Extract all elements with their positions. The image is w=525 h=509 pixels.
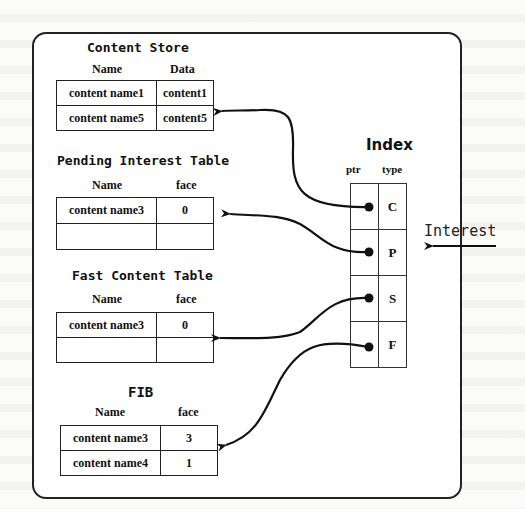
pointer-dot-s xyxy=(365,294,374,303)
arrow-index-c-to-content-store xyxy=(222,110,369,207)
arrow-index-p-to-pit xyxy=(230,214,369,252)
connector-arrows xyxy=(0,0,525,509)
arrow-index-s-to-fct xyxy=(220,298,369,338)
pointer-dot-p xyxy=(365,248,374,257)
pointer-dot-c xyxy=(365,203,374,212)
arrow-index-f-to-fib xyxy=(226,343,369,445)
pointer-dot-f xyxy=(365,343,374,352)
